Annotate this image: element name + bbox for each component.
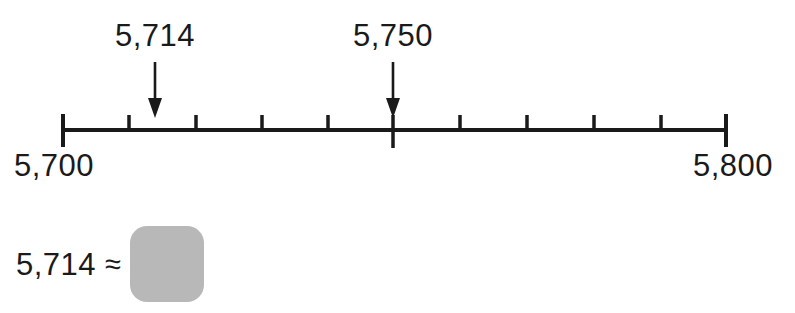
answer-number: 5,714 bbox=[16, 249, 96, 280]
number-line-start-label: 5,700 bbox=[14, 150, 94, 181]
answer-blank-input[interactable] bbox=[130, 226, 204, 302]
number-line-worksheet: 5,714 5,750 5,700 5,800 5,714 ≈ bbox=[0, 0, 795, 313]
answer-row: 5,714 ≈ bbox=[16, 226, 204, 302]
number-line-figure: 5,714 5,750 5,700 5,800 bbox=[0, 0, 795, 200]
pointer-label-5714: 5,714 bbox=[115, 20, 195, 51]
pointer-label-5750: 5,750 bbox=[353, 20, 433, 51]
number-line-end-label: 5,800 bbox=[693, 150, 773, 181]
pointer-arrow-5714 bbox=[148, 62, 162, 118]
pointer-arrow-5750 bbox=[386, 62, 400, 118]
approximately-equal-icon: ≈ bbox=[105, 250, 121, 279]
